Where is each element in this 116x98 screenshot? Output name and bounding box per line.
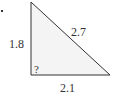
side-label-left: 1.8	[9, 38, 24, 50]
side-label-hypotenuse: 2.7	[71, 26, 86, 38]
angle-label-unknown: ?	[34, 64, 39, 75]
triangle-figure: 1.8 2.7 2.1 ?	[0, 0, 116, 98]
side-label-bottom: 2.1	[60, 82, 75, 94]
